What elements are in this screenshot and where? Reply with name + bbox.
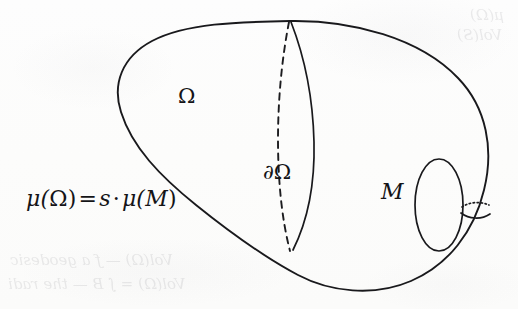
equation-dot: · bbox=[111, 186, 122, 211]
equation-equals: = bbox=[77, 186, 100, 211]
label-boundary-partial-omega: ∂Ω bbox=[263, 160, 291, 184]
equation-mu-open-1: μ( bbox=[26, 186, 49, 211]
equation-close-1: ) bbox=[68, 186, 77, 211]
boundary-curve-dashed-icon bbox=[278, 22, 290, 251]
manifold-diagram-svg bbox=[0, 0, 518, 309]
equation-scalar-s: s bbox=[99, 186, 111, 211]
handle-hole-ellipse-icon bbox=[415, 159, 463, 251]
handle-neck-dotted-icon bbox=[462, 203, 489, 207]
equation-mu-open-2: μ( bbox=[122, 186, 145, 211]
label-manifold-m: M bbox=[381, 179, 404, 204]
equation-close-2: ) bbox=[168, 186, 177, 211]
equation-omega: Ω bbox=[49, 186, 67, 211]
label-measure-equation: μ(Ω)=s·μ(M) bbox=[26, 186, 177, 211]
boundary-curve-solid-icon bbox=[291, 22, 314, 250]
figure-root: μ(Ω) Vol(S) Vol(Ω) — ƒ a geodesic Vol(Ω)… bbox=[0, 0, 518, 309]
label-region-omega: Ω bbox=[178, 84, 195, 108]
equation-m: M bbox=[145, 186, 168, 211]
